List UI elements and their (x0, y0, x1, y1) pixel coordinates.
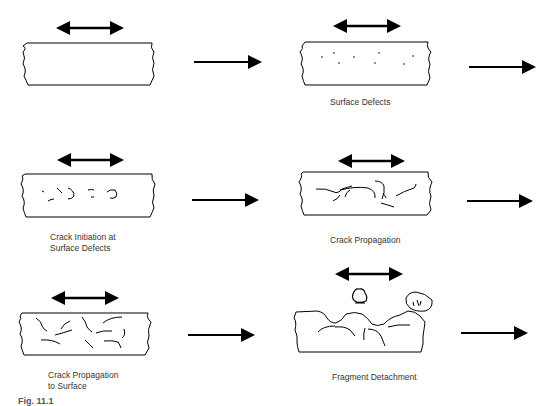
caption-surface-defects: Surface Defects (330, 97, 390, 108)
stage-2 (300, 19, 536, 85)
double-headed-arrow-icon (51, 291, 119, 305)
initiated-cracks (42, 188, 117, 201)
worn-material-block (294, 311, 425, 352)
surface-cracks (36, 317, 125, 348)
caption-crack-to-surface: Crack Propagation to Surface (48, 370, 118, 392)
figure-label: Fig. 11.1 (18, 396, 54, 406)
right-arrow-icon (192, 193, 259, 207)
caption-fragment-detachment: Fragment Detachment (332, 372, 417, 383)
caption-line-1: Crack Initiation at (50, 232, 116, 243)
stage-4 (299, 154, 533, 215)
right-arrow-icon (461, 326, 528, 340)
propagating-cracks (316, 181, 416, 207)
right-arrow-icon (469, 60, 536, 74)
caption-crack-propagation: Crack Propagation (330, 235, 400, 246)
surface-defects (321, 52, 414, 65)
right-arrow-icon (194, 55, 262, 69)
detached-fragment (406, 292, 432, 311)
right-arrow-icon (467, 194, 533, 208)
material-block (300, 42, 431, 85)
double-headed-arrow-icon (56, 21, 124, 35)
caption-line-2: Surface Defects (50, 243, 116, 254)
detached-fragment (353, 289, 367, 303)
material-block (299, 172, 432, 215)
subsurface-cracks (318, 325, 410, 346)
stage-5 (19, 291, 255, 355)
caption-crack-initiation: Crack Initiation at Surface Defects (50, 232, 116, 254)
right-arrow-icon (188, 328, 255, 342)
caption-line-1: Crack Propagation (48, 370, 118, 381)
caption-line-2: to Surface (48, 381, 118, 392)
double-headed-arrow-icon (335, 267, 403, 281)
stage-3 (21, 153, 259, 217)
material-block (23, 43, 154, 85)
double-headed-arrow-icon (57, 153, 124, 167)
stage-1 (23, 21, 262, 85)
material-block (19, 313, 151, 355)
double-headed-arrow-icon (333, 19, 401, 33)
double-headed-arrow-icon (338, 154, 405, 168)
material-block (21, 174, 155, 217)
stage-6 (294, 267, 528, 352)
